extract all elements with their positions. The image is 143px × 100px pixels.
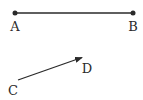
segment-ab: [13, 11, 136, 16]
label-d: D: [82, 62, 92, 75]
vector-cd-arrow: [18, 58, 82, 81]
diagram-canvas: A B C D: [0, 0, 143, 100]
label-a: A: [10, 20, 19, 33]
label-b: B: [128, 20, 138, 33]
vector-cd: [18, 58, 82, 81]
point-a-dot: [13, 11, 18, 16]
point-b-dot: [131, 11, 136, 16]
label-c: C: [8, 84, 18, 97]
diagram-svg: [0, 0, 143, 100]
